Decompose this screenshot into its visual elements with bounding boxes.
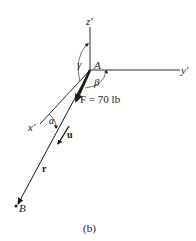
alpha-label: α — [49, 115, 55, 126]
figure-caption: (b) — [83, 222, 96, 235]
z-axis-label: z' — [85, 15, 93, 27]
position-vector-r — [18, 72, 89, 204]
position-vector-label: r — [42, 163, 47, 174]
point-b — [15, 205, 18, 208]
x-axis-label: x' — [27, 121, 36, 133]
force-label: F = 70 lb — [80, 93, 121, 105]
alpha-arc-arrow-icon — [54, 125, 58, 129]
gamma-label: γ — [77, 58, 82, 70]
y-axis-label: y' — [180, 64, 189, 76]
beta-arc-arrow-icon — [104, 70, 108, 74]
beta-label: β — [93, 76, 100, 88]
gamma-arc-arrow-icon — [85, 43, 89, 47]
end-point-label: B — [19, 202, 26, 214]
origin-label: A — [93, 59, 101, 71]
coordinate-diagram: z' y' x' A γ β α F = 70 lb u r B (b) — [0, 0, 196, 241]
unit-vector-label: u — [67, 129, 73, 140]
